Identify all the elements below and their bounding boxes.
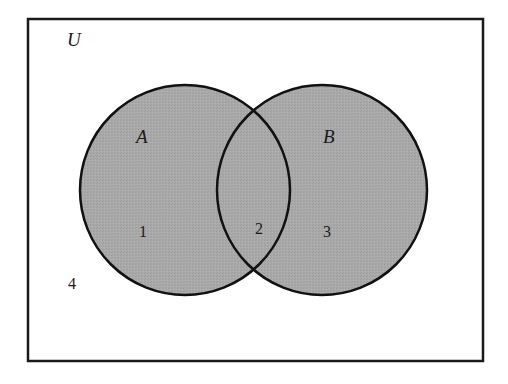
- region-1-label: 1: [139, 224, 147, 240]
- set-b-label: B: [323, 127, 335, 146]
- venn-svg: [0, 0, 508, 384]
- region-3-label: 3: [323, 224, 331, 240]
- set-a-label: A: [136, 127, 148, 146]
- universe-label: U: [67, 30, 81, 49]
- region-4-label: 4: [68, 276, 76, 292]
- venn-diagram: U A B 1 2 3 4: [0, 0, 508, 384]
- region-2-label: 2: [255, 221, 263, 237]
